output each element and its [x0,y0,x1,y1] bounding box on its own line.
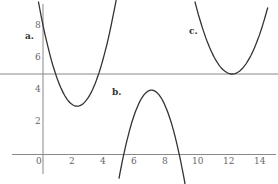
chart: 02468101214 2468 a. b. c. [0,0,278,184]
curve-a [38,0,117,106]
y-tick-label: 8 [35,21,41,30]
y-tick-label: 2 [35,117,41,126]
x-tick-label: 2 [69,157,75,166]
x-tick-label: 8 [162,157,168,166]
y-tick-label: 6 [35,53,41,62]
x-tick-label: 4 [100,157,106,166]
label-b: b. [112,88,121,97]
curve-c [195,2,268,75]
label-a: a. [25,32,34,41]
x-tick-label: 0 [36,157,42,166]
x-tick-label: 14 [254,157,265,166]
y-tick-label: 4 [35,85,41,94]
x-tick-label: 12 [223,157,234,166]
x-tick-label: 10 [192,157,203,166]
x-tick-label: 6 [131,157,137,166]
curve-b [119,90,189,184]
label-c: c. [189,27,198,36]
